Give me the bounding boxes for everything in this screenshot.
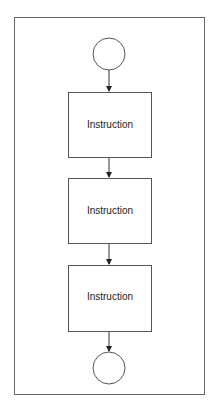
step-2: Instruction <box>69 179 152 244</box>
step-2-label: Instruction <box>87 205 133 216</box>
step-3: Instruction <box>69 266 152 332</box>
start-node <box>93 38 125 70</box>
flowchart-canvas: Instruction Instruction Instruction <box>0 0 213 410</box>
step-1: Instruction <box>69 93 152 158</box>
step-1-label: Instruction <box>87 119 133 130</box>
end-node <box>93 352 125 384</box>
step-3-label: Instruction <box>87 291 133 302</box>
